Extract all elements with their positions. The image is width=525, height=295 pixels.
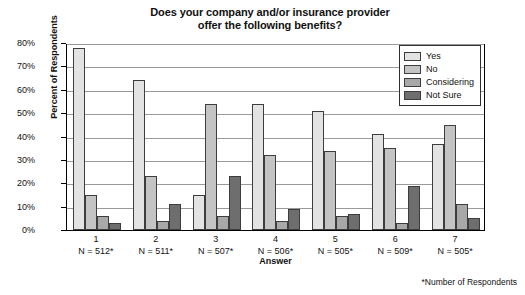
legend-swatch-icon — [404, 78, 421, 87]
bar-group — [127, 45, 187, 230]
y-tick-label: 10% — [0, 203, 35, 212]
legend-label: Considering — [426, 77, 474, 87]
y-tick-label: 20% — [0, 179, 35, 188]
legend-label: No — [426, 64, 438, 74]
bar — [444, 125, 456, 230]
bar-group — [306, 45, 366, 230]
x-axis-title: Answer — [66, 256, 485, 266]
y-tick-label: 40% — [0, 133, 35, 142]
bar — [73, 48, 85, 230]
chart-title-line-2: offer the following benefits? — [60, 19, 480, 32]
x-tick-label: 7 — [415, 234, 495, 244]
bar — [85, 195, 97, 230]
bar — [372, 134, 384, 230]
bar — [288, 209, 300, 230]
legend-item: Not Sure — [404, 89, 476, 101]
bar-group — [247, 45, 307, 230]
y-tick-label: 0% — [0, 226, 35, 235]
legend-swatch-icon — [404, 91, 421, 100]
bar — [312, 111, 324, 230]
y-tick-label: 50% — [0, 109, 35, 118]
bar — [217, 216, 229, 230]
y-tick-label: 70% — [0, 62, 35, 71]
bar — [276, 221, 288, 230]
bar — [145, 176, 157, 230]
legend-item: Considering — [404, 76, 476, 88]
bar — [252, 104, 264, 230]
bar — [384, 148, 396, 230]
chart-legend: YesNoConsideringNot Sure — [399, 45, 481, 106]
bar — [336, 216, 348, 230]
bar-group — [67, 45, 127, 230]
chart-figure: Does your company and/or insurance provi… — [0, 0, 525, 295]
legend-item: No — [404, 63, 476, 75]
legend-label: Yes — [426, 51, 441, 61]
bar — [396, 223, 408, 230]
bar — [432, 144, 444, 230]
bar — [133, 80, 145, 230]
legend-label: Not Sure — [426, 90, 462, 100]
legend-swatch-icon — [404, 52, 421, 61]
legend-swatch-icon — [404, 65, 421, 74]
bar-group — [187, 45, 247, 230]
legend-item: Yes — [404, 50, 476, 62]
bar — [264, 155, 276, 230]
bar — [157, 221, 169, 230]
bar — [193, 195, 205, 230]
bar — [468, 218, 480, 230]
bar — [408, 186, 420, 230]
y-tick-label: 60% — [0, 86, 35, 95]
bar — [205, 104, 217, 230]
bar — [97, 216, 109, 230]
chart-title-line-1: Does your company and/or insurance provi… — [60, 6, 480, 19]
bar — [109, 223, 121, 230]
x-tick-sublabel: N = 505* — [415, 246, 495, 256]
y-axis-title: Percent of Respondents — [49, 0, 59, 147]
bar — [324, 151, 336, 230]
y-tick-label: 80% — [0, 39, 35, 48]
chart-title: Does your company and/or insurance provi… — [60, 6, 480, 32]
bar — [169, 204, 181, 230]
bar — [229, 176, 241, 230]
footnote: *Number of Respondents — [422, 277, 517, 287]
y-tick-label: 30% — [0, 156, 35, 165]
bar — [348, 214, 360, 230]
bar — [456, 204, 468, 230]
